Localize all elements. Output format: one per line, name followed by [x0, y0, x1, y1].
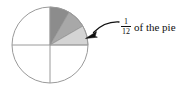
- callout-label: 1 12 of the pie: [121, 18, 176, 36]
- pie-diagram-canvas: [0, 0, 186, 90]
- pie-fraction-figure: 1 12 of the pie: [0, 0, 186, 90]
- fraction-one-twelfth: 1 12: [121, 18, 131, 36]
- fraction-denominator: 12: [121, 27, 131, 36]
- fraction-numerator: 1: [123, 18, 129, 26]
- callout-arrow-curve: [94, 22, 120, 33]
- callout-text: of the pie: [134, 22, 176, 33]
- callout-arrow-head: [86, 32, 98, 39]
